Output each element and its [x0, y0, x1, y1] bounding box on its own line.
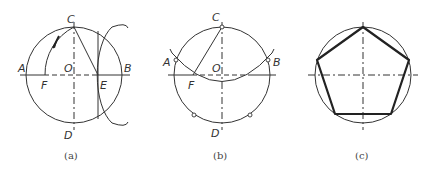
label-o: O [212, 62, 221, 75]
panel-b: C A O B F D (b) [162, 11, 281, 161]
vertex-d1 [192, 113, 196, 117]
label-a: A [162, 56, 171, 69]
label-d: D [64, 129, 72, 142]
label-a: A [17, 62, 26, 75]
arc-e-bot [112, 122, 128, 125]
pentagon-construction-figure: C A O B F E D (a) C A O B F D (b) [0, 0, 433, 173]
caption-a: (a) [64, 150, 78, 161]
vertex-d2 [248, 113, 252, 117]
panel-a: C A O B F E D (a) [17, 13, 132, 161]
arc-tick-b [272, 49, 274, 53]
arc-e-top [112, 25, 128, 28]
label-o: O [64, 62, 73, 75]
label-f: F [41, 79, 48, 92]
label-f: F [188, 79, 195, 92]
label-e: E [100, 79, 107, 92]
arrow-stroke [53, 36, 59, 48]
panel-c: (c) [308, 22, 418, 161]
arc-tick-a [170, 49, 172, 53]
vertex-a [174, 58, 178, 62]
label-d: D [211, 127, 219, 140]
label-c: C [67, 13, 75, 26]
label-b: B [273, 56, 281, 69]
line-ce [74, 27, 98, 75]
vertex-c [220, 25, 224, 29]
label-c: C [212, 11, 220, 24]
caption-b: (b) [213, 150, 227, 161]
caption-c: (c) [355, 150, 369, 161]
label-b: B [124, 62, 132, 75]
vertex-b [266, 58, 270, 62]
